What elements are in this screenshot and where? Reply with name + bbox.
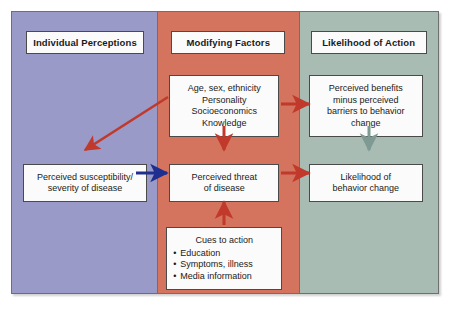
node-perceived-benefits: Perceived benefits minus perceived barri… [309,75,423,137]
health-belief-model-diagram: Individual Perceptions Perceived suscept… [0,0,450,310]
node-perceived-threat: Perceived threat of disease [169,164,279,202]
node-cues-to-action: Cues to action Education Symptoms, illne… [166,227,282,290]
node-demographics: Age, sex, ethnicity Personality Socioeco… [169,75,279,137]
column-header-modifying-factors: Modifying Factors [171,31,285,54]
column-header-likelihood-of-action: Likelihood of Action [311,31,427,54]
column-modifying-factors: Modifying Factors Age, sex, ethnicity Pe… [157,12,298,293]
column-likelihood-of-action: Likelihood of Action Perceived benefits … [299,12,438,293]
column-divider-left [157,12,158,293]
column-header-individual-perceptions: Individual Perceptions [26,31,144,54]
column-divider-right [299,12,300,293]
node-perceived-susceptibility: Perceived susceptibility/ severity of di… [23,164,147,202]
list-item: Education [180,248,253,260]
diagram-frame: Individual Perceptions Perceived suscept… [11,11,439,294]
cues-to-action-list: Education Symptoms, illness Media inform… [167,248,253,283]
node-likelihood-of-behavior-change: Likelihood of behavior change [309,164,423,202]
list-item: Symptoms, illness [180,259,253,271]
list-item: Media information [180,271,253,283]
column-individual-perceptions: Individual Perceptions Perceived suscept… [12,12,157,293]
